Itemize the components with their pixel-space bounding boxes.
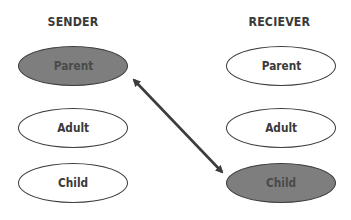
bidirectional-arrow-icon bbox=[0, 0, 351, 220]
